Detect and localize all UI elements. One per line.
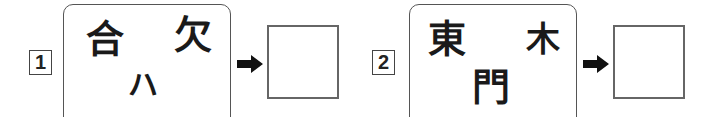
kanji-puzzle-box-1: 合 欠 ハ: [63, 4, 231, 117]
kanji-part-top-right: 欠: [174, 15, 212, 55]
right-arrow-icon: [237, 55, 263, 73]
answer-box-2[interactable]: [613, 25, 685, 99]
kanji-part-top-left: 東: [428, 19, 466, 59]
problem-number-2: 2: [372, 50, 395, 75]
problem-number-1: 1: [29, 50, 52, 75]
kanji-part-top-left: 合: [86, 19, 124, 59]
kanji-part-bottom: 門: [472, 67, 510, 107]
kanji-puzzle-box-2: 東 木 門: [409, 4, 577, 117]
kanji-part-top-right: 木: [526, 19, 560, 59]
kanji-part-bottom: ハ: [128, 65, 158, 105]
right-arrow-icon: [583, 55, 609, 73]
answer-box-1[interactable]: [267, 25, 339, 99]
